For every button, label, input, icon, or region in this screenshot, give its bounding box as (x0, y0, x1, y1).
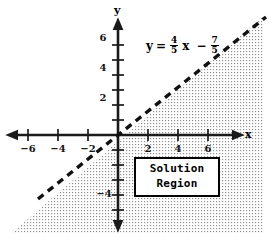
x-tick-label-6: 6 (200, 144, 216, 154)
y-tick-label-minus-4: −4 (94, 189, 114, 199)
coordinate-plane-figure: y x −6 −4 −2 2 4 6 6 4 2 −4 y = 4 5 x − … (0, 0, 270, 234)
x-tick-label-2: 2 (140, 144, 156, 154)
equation-coefficient-fraction: 4 5 (170, 36, 178, 56)
x-axis-label: x (245, 129, 252, 140)
solution-region-line-2: Region (157, 177, 198, 192)
equation-annotation: y = 4 5 x − 7 5 (146, 36, 220, 56)
y-tick-label-2: 2 (96, 93, 110, 103)
equation-lhs: y (146, 39, 153, 53)
equation-equals: = (156, 39, 166, 53)
equation-variable: x (182, 39, 189, 53)
equation-constant-denominator: 5 (211, 46, 219, 55)
solution-region-box: Solution Region (134, 157, 220, 197)
y-tick-label-4: 4 (96, 63, 110, 73)
solution-region-line-1: Solution (150, 162, 205, 177)
x-tick-label-4: 4 (170, 144, 186, 154)
equation-coefficient-denominator: 5 (170, 46, 178, 55)
y-tick-label-6: 6 (96, 33, 110, 43)
x-tick-label-minus-2: −2 (78, 144, 98, 154)
graph-canvas (0, 0, 270, 234)
equation-minus-sign: − (196, 39, 206, 53)
x-tick-label-minus-4: −4 (48, 144, 68, 154)
y-axis-label: y (114, 5, 120, 16)
equation-constant-fraction: 7 5 (211, 36, 219, 56)
x-tick-label-minus-6: −6 (18, 144, 38, 154)
